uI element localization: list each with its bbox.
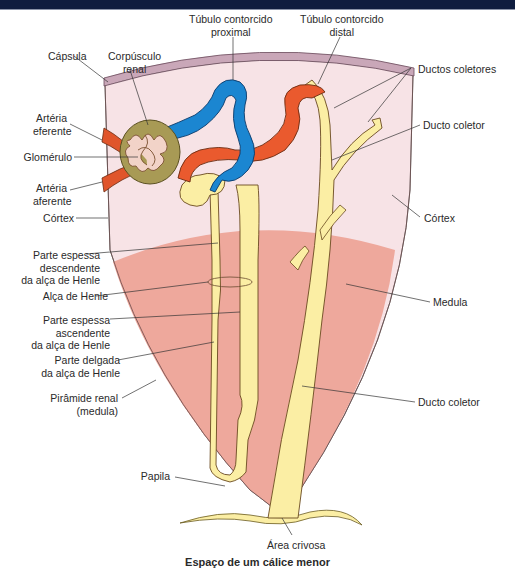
label-papila: Papila <box>130 470 170 483</box>
label-cortex-left: Córtex <box>30 212 74 225</box>
nephron-diagram <box>0 0 515 574</box>
label-glomerulo: Glomérulo <box>20 151 72 164</box>
label-tubulo-distal: Túbulo contorcidodistal <box>300 13 383 38</box>
label-parte-espessa-descendente: Parte espessadescendenteda alça de Henle <box>10 249 100 287</box>
label-cortex-right: Córtex <box>424 212 455 225</box>
label-alca-henle: Alça de Henle <box>20 290 108 303</box>
label-piramide-renal: Pirâmide renal(medula) <box>30 392 118 417</box>
label-corpusculo-renal: Corpúsculorenal <box>108 50 161 75</box>
label-arteria-eferente: Artériaeferente <box>33 112 67 137</box>
figure-caption: Espaço de um cálice menor <box>0 556 515 568</box>
label-parte-espessa-ascendente: Parte espessaascendenteda alça de Henle <box>20 314 110 352</box>
label-tubulo-proximal: Túbulo contorcidoproximal <box>189 13 272 38</box>
label-ducto-coletor-top: Ducto coletor <box>423 119 485 132</box>
label-arteria-aferente: Artériaaferente <box>33 182 67 207</box>
label-ducto-coletor-bottom: Ducto coletor <box>418 396 480 409</box>
label-medula: Medula <box>433 296 467 309</box>
label-ductos-coletores: Ductos coletores <box>418 63 496 76</box>
label-area-crivosa: Área crivosa <box>267 539 325 552</box>
label-capsula: Cápsula <box>48 50 87 63</box>
label-parte-delgada: Parte delgadada alça de Henle <box>30 354 120 379</box>
